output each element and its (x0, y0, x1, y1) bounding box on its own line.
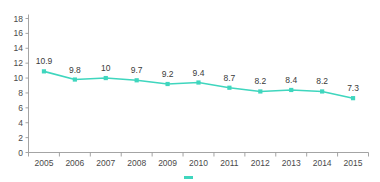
data-point-label: 8.2 (316, 76, 328, 86)
chart-plot-area: 024681012141618 200520062007200820092010… (0, 0, 380, 182)
y-tick-label: 10 (14, 73, 24, 83)
legend-swatch-icon (184, 176, 193, 179)
y-tick-label: 2 (18, 133, 23, 143)
series-marker (73, 77, 77, 81)
series-marker (289, 88, 293, 92)
data-point-label: 9.2 (162, 69, 174, 79)
y-tick-label: 8 (18, 88, 23, 98)
x-tick-label: 2015 (344, 158, 363, 168)
y-tick-label: 4 (18, 118, 23, 128)
x-tick-label: 2009 (158, 158, 177, 168)
x-tick-label: 2014 (313, 158, 332, 168)
x-axis: 2005200620072008200920102011201220132014… (29, 153, 369, 168)
y-tick-label: 18 (14, 14, 24, 24)
caption (0, 173, 380, 182)
x-tick-label: 2008 (127, 158, 146, 168)
y-tick-label: 16 (14, 28, 24, 38)
data-point-label: 9.4 (193, 68, 205, 78)
series-marker (196, 80, 200, 84)
x-tick-label: 2012 (251, 158, 270, 168)
series-marker (104, 76, 108, 80)
series-marker (351, 96, 355, 100)
y-tick-label: 6 (18, 103, 23, 113)
data-point-label: 8.4 (285, 75, 297, 85)
series-marker (165, 82, 169, 86)
data-point-label: 9.8 (69, 65, 81, 75)
y-axis: 024681012141618 (14, 14, 29, 158)
x-tick-label: 2005 (34, 158, 53, 168)
y-tick-label: 0 (18, 148, 23, 158)
y-tick-label: 12 (14, 58, 24, 68)
series-marker (320, 89, 324, 93)
x-tick-label: 2006 (65, 158, 84, 168)
x-tick-label: 2011 (220, 158, 239, 168)
x-tick-label: 2013 (282, 158, 301, 168)
data-point-labels: 10.99.8109.79.29.48.78.28.48.27.3 (36, 56, 360, 93)
data-point-label: 8.2 (254, 76, 266, 86)
series-marker (227, 86, 231, 90)
series-marker (42, 69, 46, 73)
data-point-label: 9.7 (131, 65, 143, 75)
series-marker (258, 89, 262, 93)
series-marker (135, 78, 139, 82)
line-chart-figure: 024681012141618 200520062007200820092010… (0, 0, 380, 182)
x-tick-label: 2007 (96, 158, 115, 168)
data-point-label: 10.9 (36, 56, 53, 66)
data-point-label: 8.7 (223, 73, 235, 83)
x-tick-label: 2010 (189, 158, 208, 168)
data-point-label: 10 (101, 63, 111, 73)
data-point-label: 7.3 (347, 83, 359, 93)
y-tick-label: 14 (14, 43, 24, 53)
